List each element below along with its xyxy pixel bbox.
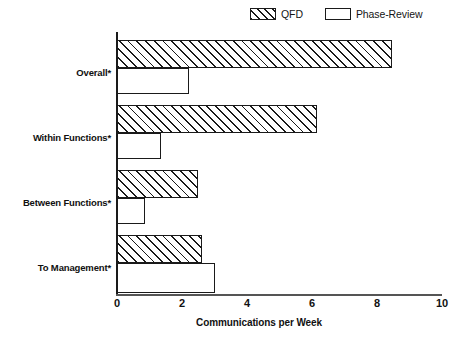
y-axis-category-labels: Overall* Within Functions* Between Funct… <box>0 32 111 294</box>
legend-swatch-hatched-icon <box>250 8 276 20</box>
x-axis-title: Communications per Week <box>0 318 462 328</box>
x-tick-10: 10 <box>436 298 448 309</box>
bar-phase-review-overall <box>117 68 189 94</box>
y-label-to-management: To Management* <box>38 263 111 273</box>
bar-phase-review-within-functions <box>117 133 161 159</box>
legend-entry-phase-review: Phase-Review <box>325 8 423 20</box>
bar-qfd-within-functions <box>117 105 317 133</box>
legend-label-phase-review: Phase-Review <box>356 9 423 20</box>
bar-qfd-overall <box>117 40 392 68</box>
bar-qfd-between-functions <box>117 170 198 198</box>
legend-entry-qfd: QFD <box>250 8 303 20</box>
legend-label-qfd: QFD <box>281 9 303 20</box>
x-tick-2: 2 <box>179 298 185 309</box>
legend-swatch-empty-icon <box>325 8 351 20</box>
x-axis-title-text: Communications per Week <box>196 317 322 328</box>
chart-legend: QFD Phase-Review <box>250 8 422 20</box>
bar-phase-review-between-functions <box>117 198 145 224</box>
x-tick-0: 0 <box>114 298 120 309</box>
y-label-within-functions: Within Functions* <box>33 133 111 143</box>
y-label-overall: Overall* <box>76 68 111 78</box>
y-label-between-functions: Between Functions* <box>23 198 111 208</box>
x-axis-tick-labels: 0 2 4 6 8 10 <box>117 298 442 314</box>
bar-chart-figure: QFD Phase-Review Overall* Within Functio… <box>0 0 462 339</box>
x-tick-8: 8 <box>374 298 380 309</box>
bar-phase-review-to-management <box>117 263 215 293</box>
x-axis-line <box>116 294 442 296</box>
x-tick-6: 6 <box>309 298 315 309</box>
bar-qfd-to-management <box>117 235 202 263</box>
plot-area <box>117 32 442 294</box>
x-tick-4: 4 <box>244 298 250 309</box>
